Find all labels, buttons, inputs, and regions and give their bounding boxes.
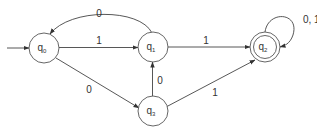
edge-label: 0 xyxy=(86,84,92,95)
edge-label: 0 xyxy=(157,75,163,86)
edge-q3-q1: 0 xyxy=(153,62,164,97)
state-q2-accepting: q2 xyxy=(250,32,280,62)
edge-q3-q2: 1 xyxy=(166,60,255,107)
edge-label: 1 xyxy=(212,87,218,98)
edge-label: 0, 1 xyxy=(303,14,317,25)
state-q3: q3 xyxy=(138,96,168,126)
edge-q1-q2: 1 xyxy=(167,35,250,47)
edge-q0-q3: 0 xyxy=(56,58,139,108)
edge-label: 1 xyxy=(96,35,102,46)
state-q0: q0 xyxy=(29,33,59,63)
state-q1: q1 xyxy=(138,32,168,62)
edge-q1-q0: 0 xyxy=(50,8,152,34)
dfa-diagram: 1 0 0 0 1 1 0, 1 q0 q1 q2 xyxy=(0,0,317,132)
edge-label: 1 xyxy=(203,35,209,46)
edge-q0-q1: 1 xyxy=(59,35,138,48)
edge-label: 0 xyxy=(96,8,102,19)
